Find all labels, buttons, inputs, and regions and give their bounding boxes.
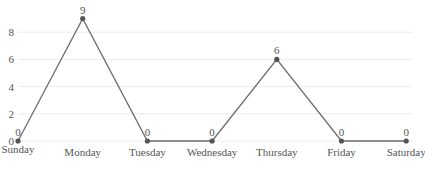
- line-chart: 02468 0900600 SundayMondayTuesdayWednesd…: [0, 0, 425, 171]
- data-point: [145, 138, 150, 143]
- data-label: 0: [403, 126, 409, 138]
- data-label: 6: [274, 44, 280, 56]
- x-category-label: Monday: [64, 146, 101, 158]
- x-category-label: Wednesday: [187, 146, 238, 158]
- y-tick-label: 2: [9, 108, 15, 120]
- x-category-label: Friday: [327, 146, 356, 158]
- data-point: [339, 138, 344, 143]
- y-tick-label: 8: [9, 26, 15, 38]
- series-line: [18, 19, 406, 141]
- data-label: 9: [80, 4, 86, 16]
- x-axis-category-labels: SundayMondayTuesdayWednesdayThursdayFrid…: [2, 143, 425, 158]
- data-label: 0: [339, 126, 345, 138]
- x-category-label: Tuesday: [129, 146, 166, 158]
- gridlines: [18, 32, 412, 141]
- data-label: 0: [209, 126, 215, 138]
- data-label: 0: [15, 126, 21, 138]
- data-point: [274, 57, 279, 62]
- y-tick-label: 4: [9, 81, 15, 93]
- y-tick-label: 6: [9, 53, 15, 65]
- x-category-label: Sunday: [2, 143, 36, 155]
- data-labels: 0900600: [15, 4, 409, 138]
- data-point: [210, 138, 215, 143]
- data-label: 0: [145, 126, 151, 138]
- x-category-label: Saturday: [387, 146, 425, 158]
- data-point: [80, 16, 85, 21]
- data-point: [404, 138, 409, 143]
- y-axis-tick-labels: 02468: [9, 26, 15, 147]
- x-category-label: Thursday: [256, 146, 298, 158]
